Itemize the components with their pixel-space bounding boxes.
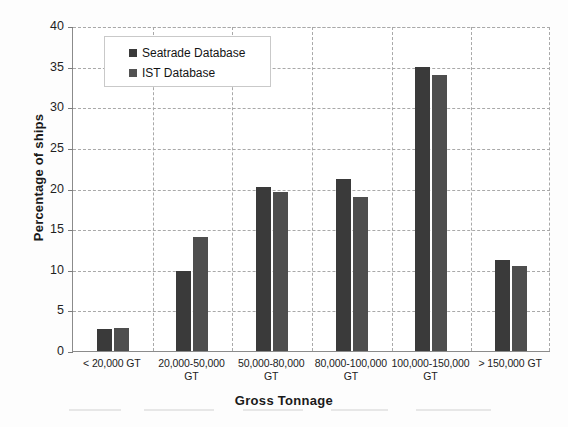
bar-chart-figure: Percentage of ships Gross Tonnage 051015…	[0, 0, 568, 427]
chart-legend: Seatrade Database IST Database	[104, 36, 271, 87]
y-axis-tick-label: 25	[30, 141, 64, 155]
legend-label-ist: IST Database	[142, 66, 215, 80]
bar	[256, 187, 271, 351]
x-axis-tick-label-line: 100,000-150,000	[391, 357, 471, 370]
bar	[512, 266, 527, 351]
x-axis-tick-label-line: < 20,000 GT	[72, 357, 152, 370]
y-axis-tick-label: 35	[30, 60, 64, 74]
legend-item-seatrade: Seatrade Database	[105, 43, 270, 63]
x-axis-tick-label-line: GT	[311, 370, 391, 383]
x-axis-tick-label: < 20,000 GT	[72, 357, 152, 370]
x-axis-tick-label: 20,000-50,000GT	[152, 357, 232, 382]
legend-swatch-ist	[129, 69, 137, 77]
x-axis-tick-label-line: GT	[391, 370, 471, 383]
legend-item-ist: IST Database	[105, 63, 270, 83]
x-axis-tick-label-line: 20,000-50,000	[152, 357, 232, 370]
x-axis-tick-label-line: > 150,000 GT	[470, 357, 550, 370]
x-axis-tick-label-line: GT	[231, 370, 311, 383]
bar	[336, 179, 351, 351]
bar-group	[471, 27, 551, 351]
x-axis-tick-label-line: 50,000-80,000	[231, 357, 311, 370]
bar	[415, 67, 430, 351]
x-axis-tick-label: 80,000-100,000GT	[311, 357, 391, 382]
bar	[114, 328, 129, 351]
x-axis-tick-label-line: GT	[152, 370, 232, 383]
bar	[176, 271, 191, 351]
bar	[353, 197, 368, 351]
y-axis-tick-label: 5	[30, 303, 64, 317]
y-axis-tick-label: 40	[30, 19, 64, 33]
x-axis-tick-label: > 150,000 GT	[470, 357, 550, 370]
y-axis-tick-mark	[68, 352, 73, 353]
x-axis-tick-label: 100,000-150,000GT	[391, 357, 471, 382]
x-axis-title: Gross Tonnage	[0, 393, 568, 408]
bar-group	[312, 27, 392, 351]
bar	[432, 75, 447, 351]
x-axis-tick-label: 50,000-80,000GT	[231, 357, 311, 382]
bar	[273, 192, 288, 351]
legend-label-seatrade: Seatrade Database	[142, 46, 245, 60]
y-axis-tick-label: 10	[30, 263, 64, 277]
bar	[193, 237, 208, 351]
legend-swatch-seatrade	[129, 49, 137, 57]
y-axis-tick-label: 30	[30, 100, 64, 114]
y-axis-tick-label: 15	[30, 222, 64, 236]
y-axis-tick-label: 0	[30, 344, 64, 358]
bar-group	[392, 27, 472, 351]
bar	[97, 329, 112, 351]
x-axis-tick-label-line: 80,000-100,000	[311, 357, 391, 370]
scan-artefact	[60, 409, 528, 419]
y-axis-tick-label: 20	[30, 182, 64, 196]
bar	[495, 260, 510, 351]
